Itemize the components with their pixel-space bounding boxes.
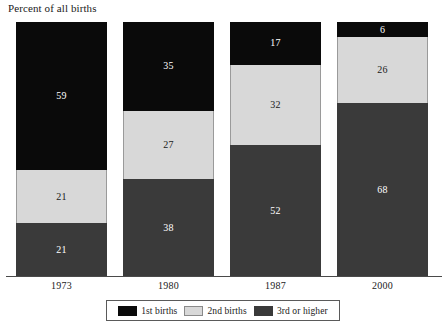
bar-segment-1973-2nd-births[interactable]: 21	[16, 170, 107, 223]
bar-segment-1973-1st-births[interactable]: 59	[16, 22, 107, 170]
legend-label: 3rd or higher	[277, 306, 328, 316]
bar-segment-value: 68	[377, 185, 387, 195]
bar-segment-value: 26	[377, 65, 387, 75]
legend-entry-1st-births[interactable]: 1st births	[118, 306, 177, 316]
legend-swatch-icon-2nd-births	[184, 306, 203, 316]
bar-segment-2000-2nd-births[interactable]: 26	[337, 37, 428, 103]
bar-column-2000[interactable]: 6 26 68	[337, 22, 428, 276]
x-axis-tick-1973: 1973	[16, 280, 107, 291]
bar-segment-1973-3rd-or-higher[interactable]: 21	[16, 223, 107, 276]
x-axis-tick-1980: 1980	[123, 280, 214, 291]
bar-segment-value: 38	[163, 223, 173, 233]
bar-segment-1987-3rd-or-higher[interactable]: 52	[230, 145, 321, 276]
chart-legend: 1st births 2nd births 3rd or higher	[106, 300, 340, 321]
plot-area: 59 21 21 35 27 38 17 32	[0, 22, 448, 276]
legend-label: 1st births	[141, 306, 177, 316]
x-axis-tick-1987: 1987	[230, 280, 321, 291]
bar-segment-2000-1st-births[interactable]: 6	[337, 22, 428, 37]
bar-segment-value: 21	[56, 192, 66, 202]
bar-segment-1980-3rd-or-higher[interactable]: 38	[123, 179, 214, 276]
bar-column-1973[interactable]: 59 21 21	[16, 22, 107, 276]
bar-segment-value: 17	[270, 38, 280, 48]
bar-segment-1980-1st-births[interactable]: 35	[123, 22, 214, 111]
chart-title: Percent of all births	[8, 2, 97, 14]
bar-segment-1987-1st-births[interactable]: 17	[230, 22, 321, 65]
legend-entry-3rd-or-higher[interactable]: 3rd or higher	[254, 306, 328, 316]
bar-segment-value: 52	[270, 206, 280, 216]
bar-segment-value: 27	[163, 140, 173, 150]
bar-column-1987[interactable]: 17 32 52	[230, 22, 321, 276]
bar-segment-value: 21	[56, 245, 66, 255]
x-axis-line	[6, 276, 442, 277]
stacked-bar-chart: Percent of all births 59 21 21 35 27 38	[0, 0, 448, 334]
legend-swatch-icon-3rd-or-higher	[254, 306, 273, 316]
bar-segment-value: 32	[270, 100, 280, 110]
x-axis-tick-2000: 2000	[337, 280, 428, 291]
legend-entry-2nd-births[interactable]: 2nd births	[184, 306, 246, 316]
bar-segment-value: 59	[56, 91, 66, 101]
bar-segment-value: 6	[380, 25, 385, 35]
legend-swatch-icon-1st-births	[118, 306, 137, 316]
bar-segment-1980-2nd-births[interactable]: 27	[123, 111, 214, 180]
bar-column-1980[interactable]: 35 27 38	[123, 22, 214, 276]
bar-segment-value: 35	[163, 61, 173, 71]
bar-segment-2000-3rd-or-higher[interactable]: 68	[337, 103, 428, 276]
bar-segment-1987-2nd-births[interactable]: 32	[230, 65, 321, 145]
legend-label: 2nd births	[207, 306, 246, 316]
